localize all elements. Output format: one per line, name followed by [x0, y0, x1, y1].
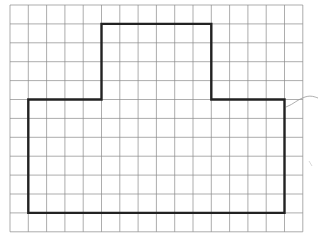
grid-canvas — [0, 0, 319, 240]
grid-lines — [10, 5, 303, 232]
grid-diagram — [0, 0, 319, 240]
faint-mark — [309, 161, 312, 166]
pen-squiggle-mark — [286, 96, 318, 107]
